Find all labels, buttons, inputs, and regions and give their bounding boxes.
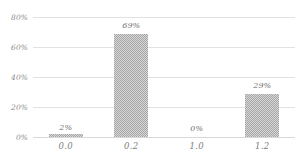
plot-area: 2% 69% 0% 29% bbox=[33, 17, 295, 137]
bar[interactable] bbox=[114, 34, 148, 138]
gridline-baseline-0 bbox=[33, 137, 295, 138]
bar-value-label: 29% bbox=[253, 81, 271, 90]
y-axis-tick-label: 40% bbox=[0, 73, 28, 82]
bar-slot: 69% bbox=[99, 17, 165, 137]
bar[interactable] bbox=[49, 134, 83, 137]
y-axis-tick-label: 20% bbox=[0, 103, 28, 112]
bar-slot: 0% bbox=[164, 17, 230, 137]
bar-value-label: 0% bbox=[190, 124, 203, 133]
x-axis-tick-label: 1.2 bbox=[230, 141, 296, 163]
x-axis: 0.0 0.2 1.0 1.2 bbox=[33, 141, 295, 163]
x-axis-tick-label: 0.0 bbox=[33, 141, 99, 163]
bar-slot: 2% bbox=[33, 17, 99, 137]
x-axis-tick-label: 0.2 bbox=[99, 141, 165, 163]
bar-series: 2% 69% 0% 29% bbox=[33, 17, 295, 137]
y-axis-tick-label: 80% bbox=[0, 13, 28, 22]
y-axis-tick-label: 0% bbox=[0, 133, 28, 142]
bar[interactable] bbox=[245, 94, 279, 138]
x-axis-tick-label: 1.0 bbox=[164, 141, 230, 163]
bar-slot: 29% bbox=[230, 17, 296, 137]
bar-value-label: 69% bbox=[122, 21, 140, 30]
y-axis-tick-label: 60% bbox=[0, 43, 28, 52]
bar-value-label: 2% bbox=[59, 123, 72, 132]
bar-chart: 0% 20% 40% 60% 80% 2% 69% 0% 29% bbox=[0, 0, 300, 165]
